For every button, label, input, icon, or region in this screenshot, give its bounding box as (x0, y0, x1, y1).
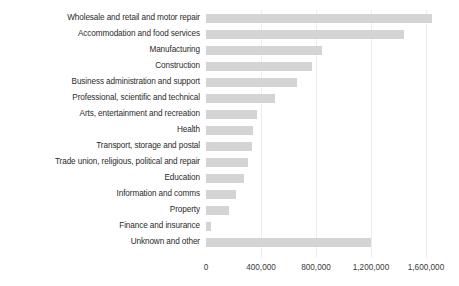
bar (206, 238, 371, 247)
bar-row: Construction (0, 58, 459, 74)
bar-row: Transport, storage and postal (0, 138, 459, 154)
bar-track (206, 110, 257, 119)
bar-row: Manufacturing (0, 42, 459, 58)
bar (206, 174, 244, 183)
bar-row: Wholesale and retail and motor repair (0, 10, 459, 26)
x-tick-label: 1,200,000 (353, 262, 389, 274)
bar-row: Accommodation and food services (0, 26, 459, 42)
bar (206, 14, 432, 23)
category-label: Unknown and other (0, 234, 200, 250)
x-tick-label: 1,600,000 (408, 262, 444, 274)
bar (206, 110, 257, 119)
bar-row: Health (0, 122, 459, 138)
bar (206, 206, 229, 215)
bar-track (206, 238, 371, 247)
bar (206, 62, 312, 71)
horizontal-bar-chart: Wholesale and retail and motor repairAcc… (0, 0, 459, 286)
category-label: Education (0, 170, 200, 186)
bar-track (206, 78, 297, 87)
category-label: Wholesale and retail and motor repair (0, 10, 200, 26)
bar-track (206, 190, 236, 199)
bar-rows: Wholesale and retail and motor repairAcc… (0, 10, 459, 250)
bar-track (206, 62, 312, 71)
bar (206, 46, 322, 55)
category-label: Transport, storage and postal (0, 138, 200, 154)
x-tick-label: 0 (204, 262, 209, 274)
bar-row: Arts, entertainment and recreation (0, 106, 459, 122)
x-tick-label: 800,000 (301, 262, 331, 274)
category-label: Professional, scientific and technical (0, 90, 200, 106)
bar (206, 94, 275, 103)
category-label: Business administration and support (0, 74, 200, 90)
bar-row: Professional, scientific and technical (0, 90, 459, 106)
bar-track (206, 222, 211, 231)
bar-track (206, 174, 244, 183)
x-axis-tick-labels: 0400,000800,0001,200,0001,600,000 (0, 262, 459, 276)
bar-track (206, 46, 322, 55)
bar-row: Unknown and other (0, 234, 459, 250)
bar-track (206, 142, 252, 151)
bar-track (206, 158, 248, 167)
bar (206, 222, 211, 231)
bar-track (206, 30, 404, 39)
bar (206, 30, 404, 39)
bar-row: Property (0, 202, 459, 218)
bar-track (206, 94, 275, 103)
category-label: Property (0, 202, 200, 218)
category-label: Accommodation and food services (0, 26, 200, 42)
category-label: Arts, entertainment and recreation (0, 106, 200, 122)
bar-row: Business administration and support (0, 74, 459, 90)
x-tick-label: 400,000 (246, 262, 276, 274)
bar (206, 142, 252, 151)
category-label: Trade union, religious, political and re… (0, 154, 200, 170)
bar-row: Trade union, religious, political and re… (0, 154, 459, 170)
bar-row: Finance and insurance (0, 218, 459, 234)
bar-track (206, 14, 432, 23)
bar (206, 126, 253, 135)
category-label: Manufacturing (0, 42, 200, 58)
bar-track (206, 126, 253, 135)
category-label: Finance and insurance (0, 218, 200, 234)
category-label: Information and comms (0, 186, 200, 202)
bar-row: Information and comms (0, 186, 459, 202)
bar (206, 190, 236, 199)
bar-row: Education (0, 170, 459, 186)
category-label: Construction (0, 58, 200, 74)
bar (206, 78, 297, 87)
bar (206, 158, 248, 167)
category-label: Health (0, 122, 200, 138)
bar-track (206, 206, 229, 215)
